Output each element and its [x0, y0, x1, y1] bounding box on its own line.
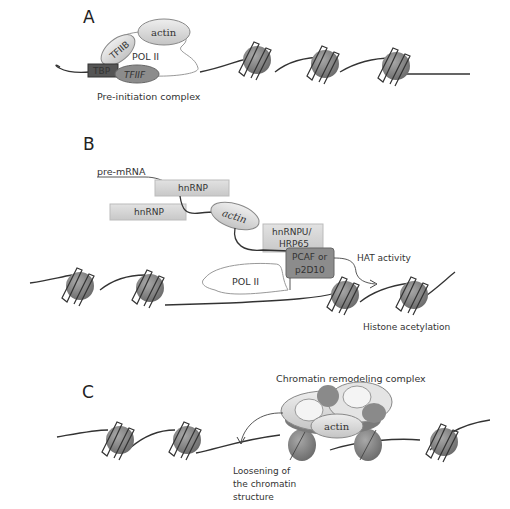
pre-mrna-label: pre-mRNA	[97, 166, 146, 177]
nucleosome	[102, 422, 134, 460]
complex-subunit	[362, 403, 386, 423]
loosening-label-line2: the chromatin	[233, 479, 296, 489]
nucleosome	[327, 277, 359, 315]
loosening-label-line1: Loosening of	[233, 466, 291, 476]
complex-subunit	[343, 386, 371, 408]
tfiif-label: TFIIF	[124, 70, 146, 80]
tbp-box: TBP	[88, 64, 118, 77]
panel-letter-a: A	[83, 7, 95, 27]
pol2-label: POL II	[232, 276, 259, 287]
hnrnpu-label-line1: hnRNPU/	[272, 227, 312, 237]
hnrnp-box-2: hnRNP	[110, 204, 186, 220]
nucleosome	[426, 424, 458, 462]
panel-c: C Chromatin remodeling complex actin Loo…	[57, 373, 490, 502]
actin-ellipse: actin	[138, 19, 190, 45]
panel-letter-b: B	[83, 134, 95, 154]
tfiif-ellipse: TFIIF	[115, 65, 159, 83]
hnrnp-label: hnRNP	[134, 207, 164, 217]
pcaf-label-line1: PCAF or	[292, 252, 327, 262]
panel-letter-c: C	[82, 382, 94, 402]
actin-label: actin	[324, 421, 350, 432]
nucleosome	[396, 277, 428, 315]
nucleosome	[378, 48, 410, 86]
histone-acetylation-label: Histone acetylation	[363, 322, 450, 332]
hnrnp-box-1: hnRNP	[155, 180, 229, 196]
tbp-label: TBP	[92, 66, 111, 76]
panel-b: B pre-mRNA hnRNP hnRNP actin hnRNPU/ HRP…	[30, 134, 455, 332]
diagram-canvas: A TFIIB actin POL II TBP TFIIF	[0, 0, 510, 509]
actin-label: actin	[151, 27, 177, 38]
nucleosome	[169, 422, 201, 460]
nucleosome	[239, 42, 271, 80]
pcaf-label-line2: p2D10	[295, 265, 325, 275]
pol2-label: POL II	[132, 51, 159, 62]
loosening-label-line3: structure	[233, 492, 274, 502]
hnrnp-label: hnRNP	[178, 183, 208, 193]
chromatin-remodeling-complex: actin	[281, 382, 392, 438]
nucleosome	[62, 268, 94, 306]
nucleosome	[307, 46, 339, 84]
panel-a: A TFIIB actin POL II TBP TFIIF	[56, 7, 470, 102]
pcaf-box: PCAF or p2D10	[286, 248, 334, 278]
hat-activity-label: HAT activity	[357, 253, 411, 263]
pre-initiation-caption: Pre-initiation complex	[97, 91, 201, 102]
